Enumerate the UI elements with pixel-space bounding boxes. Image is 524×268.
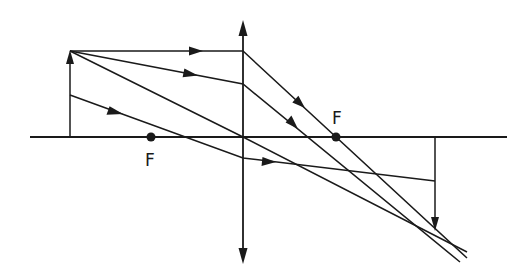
ray-center (70, 51, 467, 252)
focal-point-right (332, 133, 341, 142)
ray-parallel-arrowhead-icon (189, 47, 203, 56)
ray-oblique (70, 51, 460, 262)
focal-label-right: F (332, 108, 342, 128)
ray-diagram: F F (0, 0, 524, 268)
focal-point-left (147, 133, 156, 142)
lens-top-arrowhead-icon (239, 20, 248, 36)
ray-oblique-arrowhead-icon (183, 68, 198, 77)
ray-parallel (70, 51, 467, 258)
focal-label-left: F (145, 150, 155, 170)
ray-lower-arrowhead-2-icon (262, 157, 277, 166)
ray-lower-arrowhead-icon (107, 106, 124, 115)
ray-oblique-arrowhead-2-icon (286, 115, 298, 129)
lens-bottom-arrowhead-icon (239, 248, 248, 264)
